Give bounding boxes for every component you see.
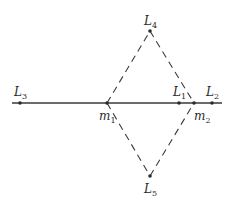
label-symbol: L	[143, 182, 152, 196]
lagrange-point-l1	[177, 101, 181, 105]
label-subscript: 4	[152, 21, 157, 30]
label-symbol: m	[99, 109, 110, 123]
label-subscript: 1	[181, 92, 186, 101]
label-symbol: L	[205, 85, 214, 99]
label-symbol: m	[194, 109, 205, 123]
lagrange-points-diagram: m1m2 L1L2L3L4L5	[0, 0, 233, 203]
lagrange-label-l5: L5	[143, 182, 157, 198]
label-subscript: 1	[110, 116, 115, 125]
mass-label-m1: m1	[99, 109, 115, 125]
label-symbol: L	[143, 14, 152, 28]
mass-label-m2: m2	[194, 109, 210, 125]
lagrange-point-l2	[210, 101, 214, 105]
dashed-line-l4-m2	[150, 31, 194, 103]
lagrange-label-l2: L2	[205, 85, 219, 101]
dashed-line-m1-l5	[107, 103, 150, 176]
label-symbol: L	[13, 85, 22, 99]
dashed-line-m1-l4	[107, 31, 150, 103]
label-subscript: 2	[205, 116, 210, 125]
lagrange-point-l5	[148, 174, 152, 178]
lagrange-label-l3: L3	[13, 85, 27, 101]
lagrange-point-l3	[18, 101, 22, 105]
mass-point-m1	[105, 101, 109, 105]
label-subscript: 5	[152, 189, 157, 198]
label-symbol: L	[172, 85, 181, 99]
label-subscript: 3	[22, 92, 27, 101]
dashed-line-l5-m2	[150, 103, 194, 176]
lagrange-label-l4: L4	[143, 14, 157, 30]
lagrange-points-group: L1L2L3L4L5	[13, 14, 219, 198]
mass-point-m2	[192, 101, 196, 105]
masses-group: m1m2	[99, 101, 210, 125]
label-subscript: 2	[214, 92, 219, 101]
